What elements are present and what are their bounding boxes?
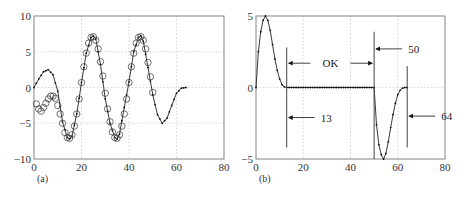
- y-tick-label: 5: [248, 10, 254, 22]
- dot-marker: [345, 87, 347, 89]
- dot-marker: [302, 87, 304, 89]
- dot-marker: [321, 87, 323, 89]
- dot-marker: [350, 87, 352, 89]
- dot-marker: [385, 152, 387, 154]
- dot-marker: [121, 120, 123, 122]
- x-tick-label: 60: [171, 161, 183, 173]
- dot-marker: [326, 87, 328, 89]
- x-tick-label: 80: [440, 161, 452, 173]
- dot-marker: [347, 87, 349, 89]
- dot-marker: [359, 87, 361, 89]
- x-tick-label: 80: [219, 161, 231, 173]
- dot-marker: [309, 87, 311, 89]
- dot-marker: [394, 102, 396, 104]
- dot-marker: [130, 66, 132, 68]
- x-tick-label: 20: [76, 161, 88, 173]
- dot-marker: [366, 87, 368, 89]
- dot-marker: [133, 51, 135, 53]
- dot-marker: [164, 120, 166, 122]
- dot-marker: [392, 114, 394, 116]
- dot-marker: [324, 87, 326, 89]
- circle-marker: [57, 111, 63, 117]
- dot-marker: [102, 81, 104, 83]
- dot-marker: [145, 53, 147, 55]
- dot-marker: [161, 122, 163, 124]
- dot-marker: [57, 90, 59, 92]
- dot-marker: [147, 67, 149, 69]
- dot-marker: [340, 87, 342, 89]
- dot-marker: [274, 58, 276, 60]
- dot-marker: [269, 29, 271, 31]
- dot-marker: [291, 87, 293, 89]
- y-tick-label: 0: [248, 82, 254, 94]
- dot-marker: [397, 94, 399, 96]
- dot-marker: [257, 51, 259, 53]
- dot-marker: [52, 74, 54, 76]
- dot-marker: [387, 141, 389, 143]
- x-tick-label: 40: [345, 161, 357, 173]
- dot-marker: [33, 87, 35, 89]
- dot-marker: [35, 82, 37, 84]
- dot-marker: [183, 87, 185, 89]
- dot-marker: [404, 87, 406, 89]
- dot-marker: [88, 44, 90, 46]
- y-tick-label: 0: [26, 82, 32, 94]
- dot-marker: [352, 87, 354, 89]
- dot-marker: [119, 133, 121, 135]
- dot-marker: [357, 87, 359, 89]
- dot-marker: [390, 127, 392, 129]
- x-tick-label: 20: [298, 161, 310, 173]
- dot-marker: [152, 94, 154, 96]
- y-tick-label: 10: [20, 10, 32, 22]
- dot-marker: [300, 87, 302, 89]
- x-tick-label: 60: [392, 161, 404, 173]
- dot-marker: [338, 87, 340, 89]
- dot-marker: [176, 92, 178, 94]
- dot-marker: [185, 87, 187, 89]
- circle-marker: [119, 123, 125, 129]
- dot-marker: [173, 98, 175, 100]
- dot-marker: [83, 67, 85, 69]
- dot-marker: [126, 94, 128, 96]
- dot-marker: [354, 87, 356, 89]
- dot-marker: [305, 87, 307, 89]
- dot-marker: [312, 87, 314, 89]
- dot-marker: [262, 19, 264, 21]
- dot-marker: [38, 78, 40, 80]
- y-tick-label: −5: [241, 153, 253, 165]
- dot-marker: [399, 89, 401, 91]
- dot-marker: [279, 78, 281, 80]
- x-tick-label: 0: [253, 161, 259, 173]
- dot-marker: [267, 19, 269, 21]
- dot-marker: [123, 107, 125, 109]
- dot-marker: [180, 87, 182, 89]
- dot-marker: [307, 87, 309, 89]
- y-tick-label: 5: [26, 46, 32, 58]
- dot-marker: [317, 87, 319, 89]
- dot-marker: [335, 87, 337, 89]
- dot-marker: [295, 87, 297, 89]
- dot-marker: [281, 84, 283, 86]
- dot-marker: [272, 44, 274, 46]
- figure: 0204060801050−5−10 02040608050−5135064OK…: [0, 0, 471, 198]
- ok-label: OK: [322, 57, 338, 69]
- dot-marker: [402, 87, 404, 89]
- dot-marker: [298, 87, 300, 89]
- dot-marker: [159, 118, 161, 120]
- dot-marker: [40, 74, 42, 76]
- circle-marker: [142, 46, 148, 52]
- dot-marker: [333, 87, 335, 89]
- panel-a-label: (a): [37, 173, 48, 185]
- dot-marker: [293, 87, 295, 89]
- dot-marker: [314, 87, 316, 89]
- panel-b-chart: 02040608050−5135064OK: [241, 10, 452, 173]
- dot-marker: [260, 31, 262, 33]
- dot-marker: [380, 154, 382, 156]
- dot-marker: [157, 114, 159, 116]
- dot-marker: [85, 52, 87, 54]
- dot-marker: [371, 87, 373, 89]
- dot-marker: [107, 110, 109, 112]
- panel-a-chart: 0204060801050−5−10: [14, 10, 230, 173]
- dot-marker: [376, 124, 378, 126]
- dot-marker: [154, 104, 156, 106]
